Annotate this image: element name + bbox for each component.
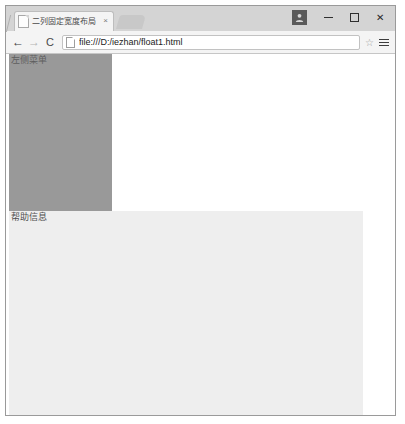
help-label: 帮助信息: [9, 211, 363, 224]
back-button[interactable]: ←: [10, 34, 26, 50]
maximize-button[interactable]: [341, 7, 367, 27]
sidebar-label: 左侧菜单: [9, 54, 112, 67]
tab-close-icon[interactable]: ×: [101, 17, 110, 26]
content-column: [112, 54, 395, 211]
menu-line: [379, 45, 389, 46]
address-bar-url: file:///D:/iezhan/float1.html: [79, 37, 183, 48]
forward-button[interactable]: →: [26, 34, 42, 50]
browser-window: 二列固定宽度布局 × ✕ ← → C file:/: [5, 5, 396, 416]
browser-toolbar: ← → C file:///D:/iezhan/float1.html ☆: [6, 31, 395, 54]
sidebar-column: 左侧菜单: [9, 54, 112, 211]
page-viewport: 左侧菜单 帮助信息: [6, 54, 395, 415]
menu-line: [379, 42, 389, 43]
minimize-icon: [324, 17, 333, 18]
menu-line: [379, 39, 389, 40]
window-controls: ✕: [292, 6, 393, 28]
new-tab-button[interactable]: [116, 15, 146, 29]
reload-button[interactable]: C: [42, 34, 58, 50]
tab-title: 二列固定宽度布局: [32, 16, 101, 27]
help-block: 帮助信息: [9, 211, 363, 415]
maximize-icon: [350, 13, 359, 22]
user-avatar-icon[interactable]: [292, 10, 307, 25]
minimize-button[interactable]: [315, 7, 341, 27]
address-bar[interactable]: file:///D:/iezhan/float1.html: [62, 35, 360, 50]
close-button[interactable]: ✕: [367, 7, 393, 27]
bookmark-star-icon[interactable]: ☆: [362, 37, 376, 48]
tab-active[interactable]: 二列固定宽度布局 ×: [14, 11, 114, 31]
page-favicon-icon: [18, 15, 29, 28]
page-root: 左侧菜单 帮助信息: [6, 54, 395, 415]
document-icon: [66, 37, 75, 48]
tab-strip: 二列固定宽度布局 × ✕: [6, 6, 395, 31]
hamburger-menu-icon[interactable]: [377, 36, 391, 48]
